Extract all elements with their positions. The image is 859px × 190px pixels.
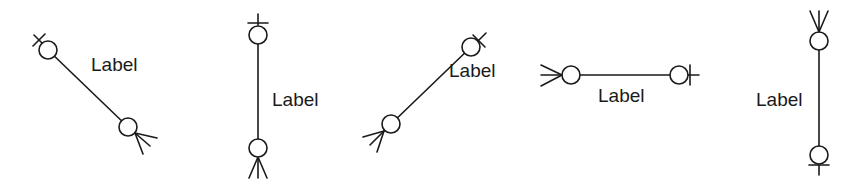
crows-foot-icon <box>810 11 828 32</box>
optional-circle-icon <box>382 115 400 133</box>
relationship-label: Label <box>272 89 319 110</box>
relationship-3[interactable]: Label <box>363 33 496 152</box>
relationship-label: Label <box>598 85 645 106</box>
optional-circle-icon <box>562 66 580 84</box>
one-bar-icon <box>688 65 699 85</box>
relationship-label: Label <box>756 89 803 110</box>
optional-circle-icon <box>810 146 828 164</box>
relationship-2[interactable]: Label <box>248 14 319 178</box>
one-bar-icon <box>809 165 829 175</box>
one-bar-icon <box>248 14 268 25</box>
optional-circle-icon <box>39 41 57 59</box>
relationship-1[interactable]: Label <box>33 34 157 154</box>
crows-foot-icon <box>363 131 384 152</box>
optional-circle-icon <box>119 118 137 136</box>
relationship-notation-diagram: Label Label Label <box>0 0 859 190</box>
connector-line[interactable] <box>391 47 471 124</box>
crows-foot-icon <box>249 157 267 178</box>
crows-foot-icon <box>541 65 562 86</box>
relationship-5[interactable]: Label <box>756 11 829 175</box>
crows-foot-icon <box>135 133 157 154</box>
optional-circle-icon <box>810 32 828 50</box>
relationship-label: Label <box>91 54 138 75</box>
optional-circle-icon <box>670 66 688 84</box>
optional-circle-icon <box>249 26 267 44</box>
relationship-label: Label <box>449 60 496 81</box>
relationship-4[interactable]: Label <box>541 65 699 106</box>
optional-circle-icon <box>462 38 480 56</box>
optional-circle-icon <box>249 139 267 157</box>
